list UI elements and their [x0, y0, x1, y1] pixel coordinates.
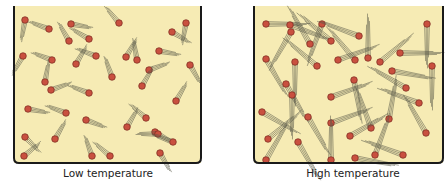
caption-high-temperature: High temperature	[300, 167, 406, 179]
container-high-temperature	[0, 0, 446, 186]
panel-high-temperature: High temperature	[0, 0, 446, 186]
